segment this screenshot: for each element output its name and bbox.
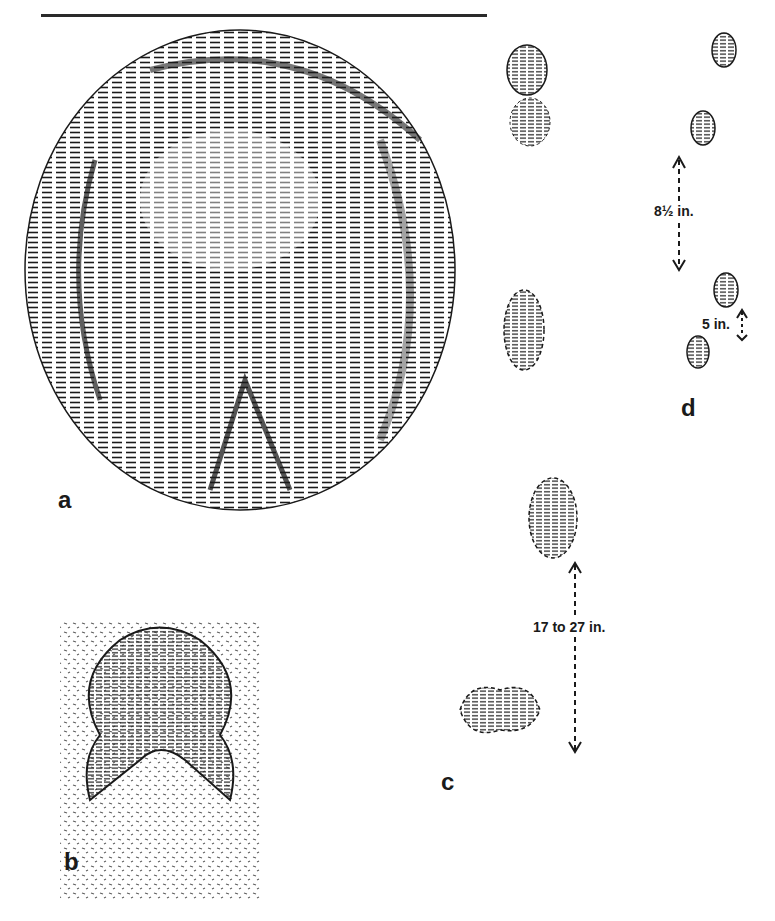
panel-label-c: c <box>441 768 454 796</box>
hoof-print-a <box>25 30 455 510</box>
measurement-d-stride: 8½ in. <box>652 203 696 219</box>
hoof-print-b <box>60 620 260 900</box>
track-c <box>460 45 581 752</box>
track-illustrations <box>0 0 775 921</box>
panel-label-b: b <box>64 848 79 876</box>
measurement-c-stride: 17 to 27 in. <box>531 619 607 635</box>
measurement-d-straddle: 5 in. <box>700 316 732 332</box>
panel-label-a: a <box>58 486 71 514</box>
panel-label-d: d <box>681 394 696 422</box>
